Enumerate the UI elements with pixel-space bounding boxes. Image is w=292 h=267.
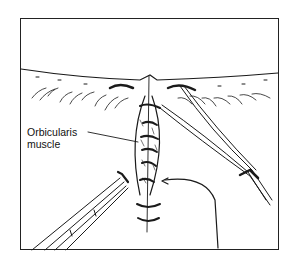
orbicularis-muscle-label: Orbicularis muscle (27, 126, 77, 150)
label-line-1: Orbicularis (27, 126, 77, 138)
needle-holder (32, 172, 128, 250)
label-line-2: muscle (27, 138, 77, 150)
lid-margin (21, 69, 278, 80)
label-leader (88, 132, 138, 142)
eyelashes (32, 88, 270, 110)
needle-suture (165, 179, 218, 248)
